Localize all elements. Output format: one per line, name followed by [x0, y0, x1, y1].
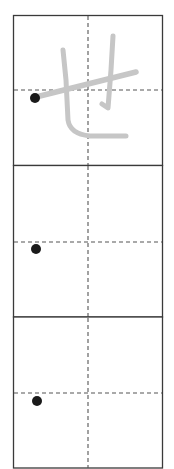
practice-cell-3 — [14, 317, 163, 468]
practice-cell-2 — [14, 166, 163, 318]
practice-cell-1 — [14, 16, 163, 166]
start-dot — [31, 244, 41, 254]
start-dot — [30, 93, 40, 103]
writing-practice-sheet — [0, 0, 174, 469]
start-dot — [32, 396, 42, 406]
